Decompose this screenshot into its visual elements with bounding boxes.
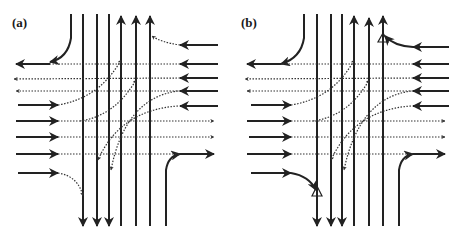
intersection-diagram-b <box>229 0 459 242</box>
intersection-diagram-a <box>0 0 230 242</box>
panel-a: (a) <box>0 0 230 242</box>
panel-label-a: (a) <box>12 15 27 31</box>
panel-label-b: (b) <box>241 15 257 31</box>
panel-b: (b) <box>229 0 459 242</box>
